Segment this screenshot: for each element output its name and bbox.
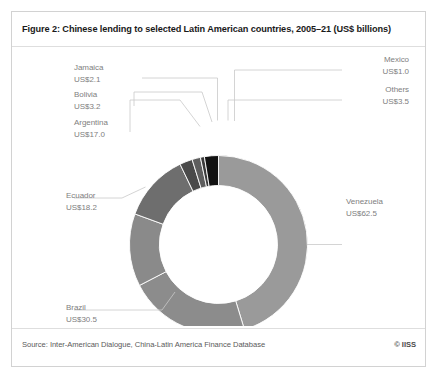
callout-argentina: Argentina US$17.0 (74, 117, 108, 141)
leader-line-mexico (235, 70, 343, 121)
callout-ecuador-value: US$18.2 (66, 202, 97, 214)
callout-jamaica: Jamaica US$2.1 (74, 62, 103, 86)
callout-bolivia-value: US$3.2 (74, 101, 100, 113)
callout-others-name: Others (383, 84, 409, 96)
callout-jamaica-name: Jamaica (74, 62, 103, 74)
callout-venezuela: Venezuela US$62.5 (346, 196, 383, 220)
title-divider (12, 46, 425, 47)
footer-divider (12, 328, 425, 329)
donut-slices (130, 156, 308, 327)
callout-others: Others US$3.5 (383, 84, 409, 108)
leader-line-jamaica (142, 78, 218, 121)
leader-line-argentina (130, 100, 200, 132)
callout-mexico: Mexico US$1.0 (383, 54, 409, 78)
callout-ecuador: Ecuador US$18.2 (66, 190, 97, 214)
callout-mexico-name: Mexico (383, 54, 409, 66)
figure-title: Figure 2: Chinese lending to selected La… (22, 23, 414, 35)
copyright-note: © IISS (394, 340, 416, 349)
leader-line-mexico-vert (144, 92, 228, 121)
callout-jamaica-value: US$2.1 (74, 74, 103, 86)
leader-line-bolivia (134, 92, 212, 122)
leader-line-others (228, 100, 342, 121)
callout-argentina-value: US$17.0 (74, 129, 108, 141)
callout-bolivia-name: Bolivia (74, 89, 100, 101)
callout-argentina-name: Argentina (74, 117, 108, 129)
donut-slice-brazil[interactable] (139, 272, 244, 326)
donut-slice-venezuela[interactable] (219, 156, 308, 327)
callout-brazil: Brazil US$30.5 (66, 302, 97, 326)
source-note: Source: Inter-American Dialogue, China-L… (22, 340, 265, 349)
callout-ecuador-name: Ecuador (66, 190, 97, 202)
callout-venezuela-value: US$62.5 (346, 208, 383, 220)
callout-others-value: US$3.5 (383, 96, 409, 108)
callout-bolivia: Bolivia US$3.2 (74, 89, 100, 113)
callout-brazil-value: US$30.5 (66, 314, 97, 326)
donut-chart: Jamaica US$2.1 Bolivia US$3.2 Argentina … (12, 48, 425, 326)
callout-brazil-name: Brazil (66, 302, 97, 314)
figure-container: Figure 2: Chinese lending to selected La… (11, 11, 426, 367)
callout-mexico-value: US$1.0 (383, 66, 409, 78)
donut-slice-ecuador[interactable] (130, 214, 167, 286)
callout-venezuela-name: Venezuela (346, 196, 383, 208)
